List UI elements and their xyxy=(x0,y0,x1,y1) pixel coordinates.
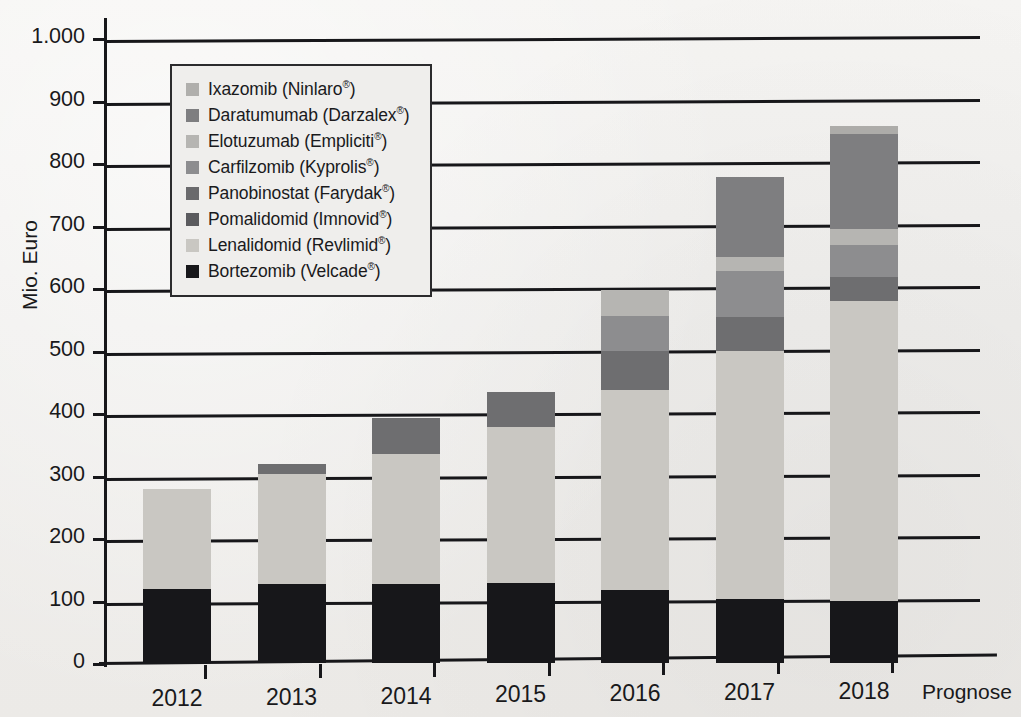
bar-2016 xyxy=(601,38,669,663)
y-axis-tick-label: 700 xyxy=(0,212,85,237)
bar-segment xyxy=(601,290,669,316)
y-axis-tick xyxy=(93,163,105,166)
y-axis-tick-label: 100 xyxy=(0,587,85,612)
y-axis-title: Mio. Euro xyxy=(18,220,42,310)
y-axis-tick xyxy=(93,413,105,416)
legend-item: Bortezomib (Velcade®) xyxy=(186,259,418,284)
bar-2017 xyxy=(716,38,784,663)
legend-item-label: Daratumumab (Darzalex®) xyxy=(208,105,410,126)
y-axis-line xyxy=(104,18,107,667)
x-axis-tick xyxy=(319,664,322,678)
y-axis-tick xyxy=(93,476,105,479)
y-axis-tick-label: 400 xyxy=(0,399,85,424)
x-axis-tick xyxy=(891,659,894,673)
legend-item-label: Pomalidomid (Imnovid®) xyxy=(208,209,392,230)
bar-segment xyxy=(830,245,898,277)
y-axis-tick-label: 900 xyxy=(0,87,85,112)
bar-segment xyxy=(830,134,898,229)
x-axis-tick xyxy=(204,665,207,679)
bar-segment xyxy=(487,583,555,663)
y-axis-tick xyxy=(93,351,105,354)
bar-segment xyxy=(716,599,784,663)
bar-2015 xyxy=(487,38,555,663)
bar-segment xyxy=(716,177,784,257)
legend-swatch-icon xyxy=(186,161,199,174)
y-axis-tick xyxy=(93,38,105,41)
legend-swatch-icon xyxy=(186,239,199,252)
bar-segment xyxy=(372,584,440,663)
bar-2018 xyxy=(830,38,898,663)
bar-segment xyxy=(830,301,898,601)
y-axis-tick xyxy=(93,288,105,291)
legend-item: Ixazomib (Ninlaro®) xyxy=(186,77,418,102)
bar-segment xyxy=(601,390,669,590)
y-axis-tick xyxy=(93,601,105,604)
bar-segment xyxy=(372,454,440,584)
legend-item-label: Lenalidomid (Revlimid®) xyxy=(208,235,391,256)
bar-segment xyxy=(716,351,784,599)
bar-segment xyxy=(258,474,326,583)
bar-segment xyxy=(716,257,784,271)
legend-swatch-icon xyxy=(186,83,199,96)
x-axis-tick xyxy=(777,660,780,674)
bar-segment xyxy=(487,427,555,583)
bar-segment xyxy=(830,126,898,135)
legend-item: Panobinostat (Farydak®) xyxy=(186,181,418,206)
bar-segment xyxy=(716,271,784,317)
y-axis-tick-label: 1.000 xyxy=(0,24,85,49)
x-axis-label: 2013 xyxy=(247,684,337,711)
bar-segment xyxy=(601,316,669,350)
y-axis-tick xyxy=(93,101,105,104)
legend-item-label: Panobinostat (Farydak®) xyxy=(208,183,395,204)
y-axis-tick-label: 500 xyxy=(0,337,85,362)
prognose-annotation: Prognose xyxy=(922,680,1012,704)
y-axis-tick-label: 600 xyxy=(0,274,85,299)
chart-legend: Ixazomib (Ninlaro®)Daratumumab (Darzalex… xyxy=(170,64,432,297)
legend-swatch-icon xyxy=(186,109,199,122)
legend-item: Carfilzomib (Kyprolis®) xyxy=(186,155,418,180)
bar-segment xyxy=(601,590,669,663)
bar-segment xyxy=(830,229,898,245)
legend-item-label: Bortezomib (Velcade®) xyxy=(208,261,381,282)
legend-item: Daratumumab (Darzalex®) xyxy=(186,103,418,128)
legend-swatch-icon xyxy=(186,213,199,226)
y-axis-tick-label: 200 xyxy=(0,524,85,549)
x-axis-tick xyxy=(433,663,436,677)
bar-segment xyxy=(830,277,898,301)
y-axis-tick xyxy=(93,663,105,666)
legend-swatch-icon xyxy=(186,265,199,278)
bar-segment xyxy=(716,317,784,351)
y-axis-tick xyxy=(93,226,105,229)
legend-item: Elotuzumab (Empliciti®) xyxy=(186,129,418,154)
y-axis-tick xyxy=(93,538,105,541)
x-axis-label: 2018 xyxy=(819,678,909,705)
x-axis-tick xyxy=(548,662,551,676)
legend-item: Pomalidomid (Imnovid®) xyxy=(186,207,418,232)
bar-segment xyxy=(601,351,669,390)
bar-segment xyxy=(487,392,555,426)
x-axis-label: 2015 xyxy=(476,681,566,708)
legend-swatch-icon xyxy=(186,135,199,148)
bar-segment xyxy=(143,589,211,663)
x-axis-label: 2016 xyxy=(590,680,680,707)
x-axis-label: 2014 xyxy=(361,683,451,710)
y-axis-tick-label: 300 xyxy=(0,462,85,487)
x-axis-label: 2012 xyxy=(132,685,222,712)
legend-swatch-icon xyxy=(186,187,199,200)
bar-segment xyxy=(258,464,326,474)
bar-segment xyxy=(372,418,440,454)
x-axis-label: 2017 xyxy=(705,679,795,706)
legend-item-label: Carfilzomib (Kyprolis®) xyxy=(208,157,379,178)
bar-segment xyxy=(143,489,211,589)
legend-item: Lenalidomid (Revlimid®) xyxy=(186,233,418,258)
stacked-bar-chart: 01002003004005006007008009001.0002012201… xyxy=(0,0,1021,717)
bar-segment xyxy=(258,584,326,663)
x-axis-tick xyxy=(662,661,665,675)
y-axis-tick-label: 0 xyxy=(0,649,85,674)
legend-item-label: Ixazomib (Ninlaro®) xyxy=(208,79,355,100)
bar-segment xyxy=(830,601,898,664)
legend-item-label: Elotuzumab (Empliciti®) xyxy=(208,131,387,152)
y-axis-tick-label: 800 xyxy=(0,149,85,174)
